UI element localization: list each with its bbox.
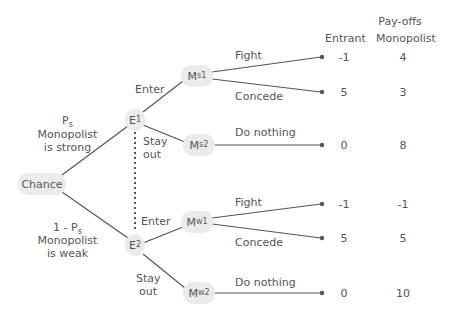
action-stay-strong-2: out [143,148,161,161]
game-tree-edges [0,0,451,319]
prob-symbol: P [62,114,69,127]
node-letter: E [129,239,136,252]
column-monopolist: Monopolist [376,32,436,45]
action-stay-strong-1: Stay [143,135,168,148]
action-enter-strong: Enter [135,83,165,96]
payoffs-title: Pay-offs [370,15,430,28]
node-letter: M [190,139,200,152]
action-enter-weak: Enter [141,215,171,228]
node-ms2: Ms2 [183,134,215,156]
payoff-monopolist: 4 [388,51,418,64]
node-e2: E2 [125,234,145,256]
strong-desc-line1: Monopolist [30,128,105,141]
weak-desc-line2: is weak [30,247,105,260]
node-letter: M [186,216,196,229]
node-letter: M [188,70,198,83]
node-mw1: Mw1 [181,211,213,233]
action-fight-weak: Fight [235,196,262,209]
action-nothing-strong: Do nothing [235,126,296,139]
action-fight-strong: Fight [235,49,262,62]
action-concede-strong: Concede [235,90,283,103]
payoff-entrant: -1 [329,51,359,64]
chance-label: Chance [21,178,62,191]
weak-desc-line1: Monopolist [30,234,105,247]
action-stay-weak-1: Stay [136,272,161,285]
payoff-entrant: 5 [329,232,359,245]
chance-node: Chance [18,173,66,195]
action-concede-weak: Concede [235,236,283,249]
payoff-entrant: 5 [329,86,359,99]
payoff-entrant: 0 [329,287,359,300]
node-e1: E1 [125,109,145,131]
payoff-monopolist: 10 [388,287,418,300]
payoff-entrant: -1 [329,198,359,211]
node-letter: M [188,287,198,300]
payoff-monopolist: 5 [388,232,418,245]
prob-symbol: 1 - P [53,221,78,234]
column-entrant: Entrant [325,32,366,45]
strong-desc-line2: is strong [30,141,105,154]
node-ms1: Ms1 [181,65,213,87]
payoff-monopolist: 3 [388,86,418,99]
action-stay-weak-2: out [139,285,157,298]
payoff-monopolist: 8 [388,139,418,152]
payoff-monopolist: -1 [388,198,418,211]
payoff-entrant: 0 [329,139,359,152]
action-nothing-weak: Do nothing [235,276,296,289]
node-letter: E [129,114,136,127]
node-mw2: Mw2 [183,282,215,304]
